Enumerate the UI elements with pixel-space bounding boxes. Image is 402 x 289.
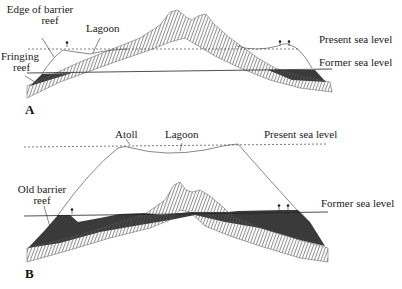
label-present-sea-level-b: Present sea level (264, 129, 337, 140)
label-line: Edge of barrier (4, 4, 76, 15)
label-line: reef (4, 15, 76, 26)
palm-tree-icon (66, 41, 69, 47)
label-lagoon-a: Lagoon (86, 23, 120, 34)
panel-label-a: A (25, 102, 34, 118)
label-fringing-reef: Fringing reef (1, 51, 39, 73)
label-old-barrier-reef: Old barrier reef (14, 184, 70, 206)
leader-line (25, 76, 35, 82)
panel-label-b: B (25, 266, 34, 282)
leader-line (93, 38, 100, 53)
palm-tree-icon (287, 204, 290, 210)
label-former-sea-level-a: Former sea level (319, 57, 392, 68)
label-line: reef (14, 195, 70, 206)
label-atoll: Atoll (115, 129, 138, 140)
palm-tree-icon (71, 208, 74, 214)
label-line: reef (1, 62, 39, 73)
leader-line (180, 143, 182, 151)
label-present-sea-level-a: Present sea level (319, 34, 392, 45)
label-former-sea-level-b: Former sea level (321, 198, 394, 209)
label-lagoon-b: Lagoon (165, 129, 199, 140)
present-sea-level-line-b (24, 144, 328, 147)
palm-tree-icon (278, 204, 281, 210)
leader-line (44, 206, 50, 227)
leader-line (42, 38, 54, 57)
label-edge-of-barrier-reef: Edge of barrier reef (4, 4, 76, 26)
